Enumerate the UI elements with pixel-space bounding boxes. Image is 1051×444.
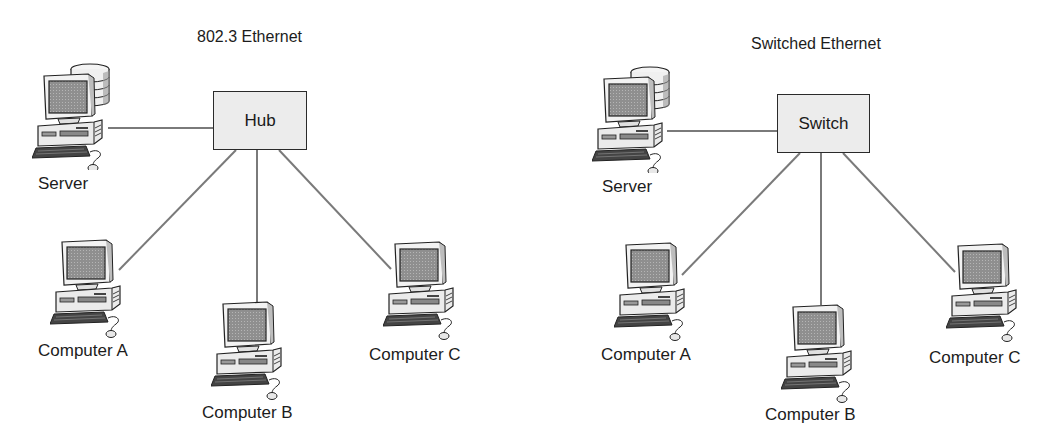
computer-a-node (614, 241, 694, 345)
link-switch-computer-c (843, 153, 955, 272)
computer-icon (946, 242, 1026, 342)
link-hub-computer-c (279, 150, 391, 269)
computer-a-label: Computer A (38, 341, 128, 361)
computer-icon (50, 238, 130, 338)
diagram-title-switched-ethernet: Switched Ethernet (751, 35, 881, 53)
hub-label: Hub (244, 111, 275, 131)
server-node (32, 60, 132, 174)
computer-c-node (946, 242, 1026, 346)
hub-box: Hub (213, 91, 307, 150)
switch-box: Switch (777, 94, 870, 153)
server-node (592, 63, 692, 177)
link-switch-computer-a (682, 153, 800, 275)
server-icon (32, 60, 132, 170)
computer-icon (614, 241, 694, 341)
link-hub-computer-a (119, 150, 236, 270)
connection-lines (0, 0, 1051, 444)
computer-b-label: Computer B (202, 403, 293, 423)
computer-c-label: Computer C (929, 348, 1021, 368)
computer-c-label: Computer C (369, 345, 461, 365)
computer-icon (781, 303, 861, 403)
computer-c-node (383, 240, 463, 344)
computer-icon (383, 240, 463, 340)
computer-b-node (781, 303, 861, 407)
computer-b-label: Computer B (765, 405, 856, 425)
computer-a-node (50, 238, 130, 342)
server-label: Server (38, 174, 88, 194)
server-icon (592, 63, 692, 173)
computer-a-label: Computer A (601, 345, 691, 365)
computer-icon (211, 300, 291, 400)
server-label: Server (602, 177, 652, 197)
diagram-title-ethernet: 802.3 Ethernet (197, 28, 302, 46)
switch-label: Switch (798, 114, 848, 134)
computer-b-node (211, 300, 291, 404)
